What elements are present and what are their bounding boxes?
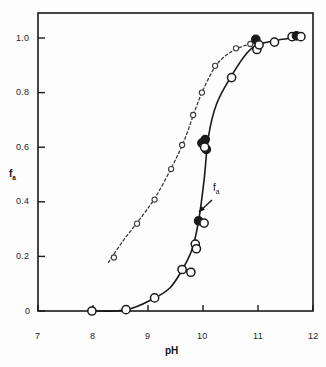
datapoint-ref-3 [169,166,174,171]
y-ticklabel-0: 0 [25,306,30,316]
y-ticklabel-0.8: 0.8 [16,87,29,97]
x-ticklabel-11: 11 [253,331,263,341]
x-axis-title: pH [165,345,178,356]
datapoint-fa-1 [122,306,130,314]
y-ticklabel-0.2: 0.2 [16,251,29,261]
datapoint-ref-7 [213,63,218,68]
datapoint-fa-2 [151,294,159,302]
plot-canvas [0,0,326,367]
datapoint-fa-12 [201,143,209,151]
datapoint-fa-4 [187,268,195,276]
x-ticklabel-7: 7 [35,331,40,341]
x-ticklabel-8: 8 [90,331,95,341]
curve-fa-solid [90,37,302,312]
datapoint-fa-6 [192,245,200,253]
x-axis-title-text: pH [165,345,178,356]
x-ticklabel-12: 12 [308,331,319,341]
datapoint-fa-13 [228,73,236,81]
y-axis-title-sub: a [12,174,16,181]
datapoint-ref-2 [152,197,157,202]
y-ticklabel-0.6: 0.6 [16,142,29,152]
x-ticklabel-10: 10 [197,331,208,341]
fa-curve-label: fa [213,182,219,195]
datapoint-fa-17 [270,38,278,46]
plot-frame [38,13,313,311]
datapoint-ref-0 [111,255,116,260]
datapoint-ref-6 [199,90,204,95]
figure-container: 1.0 0.8 0.6 0.4 0.2 0 7 8 9 10 11 12 pH … [0,0,326,367]
datapoint-ref-5 [191,112,196,117]
fa-label-sub: a [216,188,220,195]
datapoint-fa-20 [297,33,305,41]
y-ticklabel-1.0: 1.0 [16,33,29,43]
datapoint-ref-4 [180,142,185,147]
x-ticklabel-9: 9 [145,331,150,341]
y-axis-title: fa [9,168,16,181]
datapoint-fa-3 [178,265,186,273]
datapoint-fa-8 [200,219,208,227]
datapoint-ref-8 [233,46,238,51]
datapoint-fa-0 [88,307,96,315]
datapoint-fa-16 [255,41,263,49]
y-ticklabel-0.4: 0.4 [16,196,29,206]
datapoint-ref-1 [134,221,139,226]
